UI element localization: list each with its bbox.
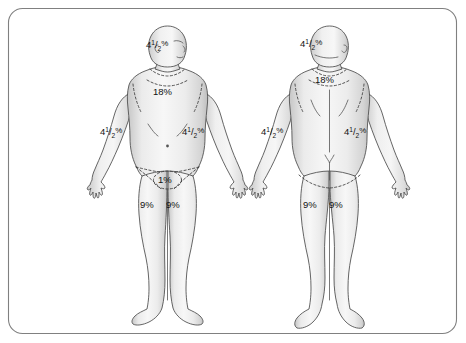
label-anterior-trunk: 18% [153, 86, 173, 97]
label-posterior-leg-viewer-left: 9% [303, 199, 317, 210]
anterior-navel [166, 145, 169, 148]
label-posterior-trunk: 18% [315, 74, 335, 85]
anterior-torso [127, 66, 207, 176]
body-surface-area-chart: 41/2% 18% 41/2% 41/2% 1% 9% 9% [0, 0, 466, 343]
label-anterior-leg-viewer-left: 9% [140, 199, 154, 210]
label-anterior-leg-viewer-right: 9% [166, 199, 180, 210]
label-anterior-genitalia: 1% [158, 174, 172, 185]
rule-of-nines-diagram: 41/2% 18% 41/2% 41/2% 1% 9% 9% [0, 0, 466, 343]
label-posterior-leg-viewer-right: 9% [329, 199, 343, 210]
